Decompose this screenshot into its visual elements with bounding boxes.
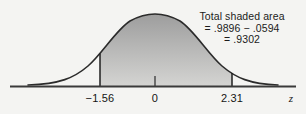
normal-curve-figure: Total shaded area = .9896 − .0594 = .930… (0, 0, 306, 114)
shaded-area-annotation: Total shaded area = .9896 − .0594 = .930… (186, 11, 298, 46)
tick-label-upper-bound: 2.31 (221, 92, 243, 104)
annotation-line-3: = .9302 (186, 34, 298, 46)
annotation-line-1: Total shaded area (186, 11, 298, 23)
tick-label-center: 0 (152, 92, 158, 104)
tick-label-lower-bound: −1.56 (86, 92, 115, 104)
axis-variable-label: z (289, 92, 293, 104)
